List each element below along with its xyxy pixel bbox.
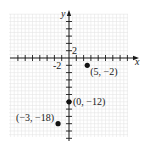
point-label: (0, −12) [73, 96, 105, 108]
x-tick-label-neg2: -2 [53, 60, 61, 71]
y-axis-label: y [60, 8, 66, 19]
point-label: (−3, −18) [16, 112, 54, 124]
point-label: (5, −2) [90, 66, 117, 78]
data-point [85, 63, 90, 68]
x-axis-label: x [134, 56, 140, 67]
y-tick-label-2: 2 [72, 45, 77, 56]
coordinate-plane: x y 2 -2 (5, −2)(0, −12)(−3, −18) [0, 0, 148, 145]
data-point [66, 99, 71, 104]
data-point [55, 121, 60, 126]
